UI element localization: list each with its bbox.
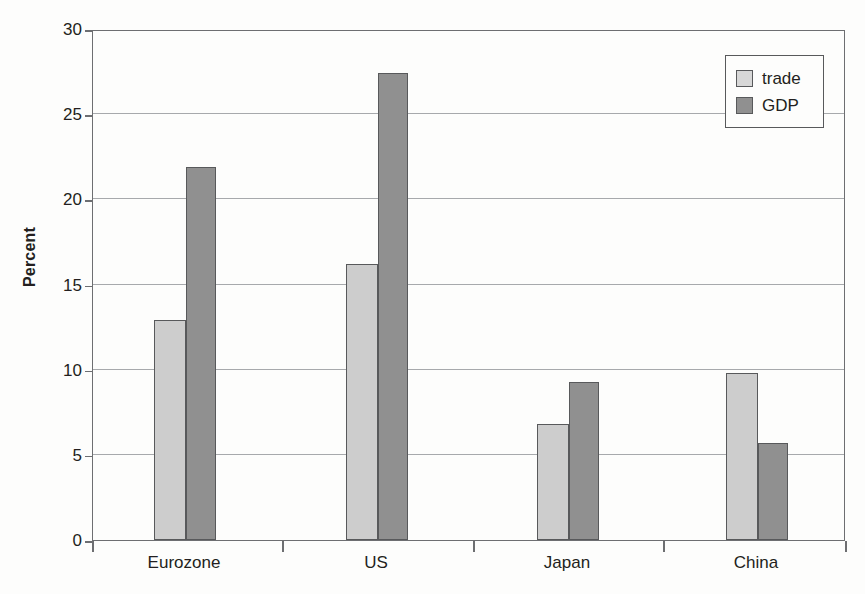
bar-china-gdp: [758, 443, 788, 540]
bar-eurozone-trade: [154, 320, 186, 540]
y-tick-mark: [85, 541, 92, 543]
x-tick-mark: [845, 541, 847, 552]
x-tick-mark: [473, 541, 475, 552]
y-tick-mark: [85, 371, 92, 373]
y-tick-mark: [85, 456, 92, 458]
bar-japan-trade: [537, 424, 569, 540]
legend-item-trade: trade: [736, 65, 823, 92]
bar-china-trade: [726, 373, 758, 540]
x-tick-mark: [92, 541, 94, 552]
y-tick-label: 0: [28, 531, 82, 551]
x-tick-label-japan: Japan: [477, 553, 657, 573]
y-tick-label: 20: [28, 190, 82, 210]
x-tick-label-eurozone: Eurozone: [94, 553, 274, 573]
legend-item-gdp: GDP: [736, 92, 823, 119]
bar-japan-gdp: [569, 382, 599, 540]
x-tick-mark: [663, 541, 665, 552]
y-tick-mark: [85, 200, 92, 202]
x-tick-mark: [282, 541, 284, 552]
x-tick-label-china: China: [666, 553, 846, 573]
legend-label: GDP: [762, 97, 799, 114]
bar-us-trade: [346, 264, 378, 540]
y-tick-label: 5: [28, 446, 82, 466]
bar-us-gdp: [378, 73, 408, 540]
y-tick-label: 30: [28, 20, 82, 40]
y-tick-label: 15: [28, 276, 82, 296]
y-axis-tick-labels: 051015202530: [20, 30, 82, 541]
x-tick-label-us: US: [286, 553, 466, 573]
bar-eurozone-gdp: [186, 167, 216, 540]
y-tick-label: 25: [28, 105, 82, 125]
chart-legend: tradeGDP: [725, 55, 824, 128]
legend-label: trade: [762, 70, 801, 87]
y-tick-mark: [85, 30, 92, 32]
y-tick-label: 10: [28, 361, 82, 381]
legend-swatch-trade: [736, 70, 753, 87]
y-tick-mark: [85, 115, 92, 117]
legend-swatch-gdp: [736, 97, 753, 114]
bar-chart: Percent 051015202530 EurozoneUSJapanChin…: [0, 0, 865, 594]
y-tick-mark: [85, 286, 92, 288]
